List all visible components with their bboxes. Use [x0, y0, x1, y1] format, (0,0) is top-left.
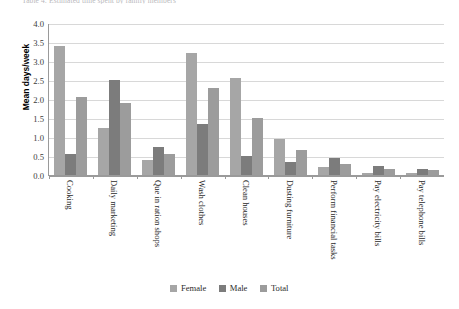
- x-axis-tickmark: [400, 175, 401, 179]
- x-axis-tickmark: [268, 175, 269, 179]
- bar-group: [268, 24, 312, 175]
- bar-female[interactable]: [406, 173, 417, 175]
- chart-figure: Table 4: Estimated time spent by family …: [0, 0, 459, 309]
- bar-total[interactable]: [340, 164, 351, 175]
- x-axis-category-text: Cooking: [65, 180, 75, 210]
- bar-male[interactable]: [65, 154, 76, 175]
- y-axis-tick-label: 1.5: [20, 114, 44, 124]
- x-axis-tickmark: [93, 175, 94, 179]
- bar-male[interactable]: [417, 169, 428, 175]
- legend-label: Total: [271, 283, 289, 293]
- bar-total[interactable]: [208, 88, 219, 175]
- bar-total[interactable]: [252, 118, 263, 175]
- chart-legend: FemaleMaleTotal: [0, 283, 459, 293]
- bar-total[interactable]: [428, 170, 439, 175]
- x-axis-category-text: Que in ration shops: [153, 180, 163, 247]
- bar-group: [137, 24, 181, 175]
- bar-group: [400, 24, 444, 175]
- y-axis-tick-label: 2.0: [20, 95, 44, 105]
- x-axis-tickmark: [312, 175, 313, 179]
- x-axis-category: Clean houses: [224, 180, 268, 272]
- bar-group: [181, 24, 225, 175]
- x-axis-category: Pay telephone bills: [400, 180, 444, 272]
- bar-female[interactable]: [362, 173, 373, 175]
- bar-male[interactable]: [373, 166, 384, 176]
- bar-total[interactable]: [76, 97, 87, 175]
- y-axis-tick-label: 2.5: [20, 76, 44, 86]
- x-axis-tickmark: [225, 175, 226, 179]
- bar-female[interactable]: [318, 167, 329, 175]
- bar-female[interactable]: [274, 139, 285, 175]
- x-axis-tickmark: [181, 175, 182, 179]
- y-axis-tick-label: 3.5: [20, 38, 44, 48]
- x-axis-category-text: Perform financial tasks: [329, 180, 339, 260]
- plot-area: [48, 24, 444, 176]
- bar-female[interactable]: [54, 46, 65, 175]
- x-axis-category-text: Wash clothes: [197, 180, 207, 225]
- y-axis-tick-label: 0.5: [20, 152, 44, 162]
- bar-group: [225, 24, 269, 175]
- y-axis-tick-label: 1.0: [20, 133, 44, 143]
- bar-male[interactable]: [285, 162, 296, 175]
- x-axis-tickmark: [49, 175, 50, 179]
- bar-female[interactable]: [142, 160, 153, 175]
- bar-male[interactable]: [153, 147, 164, 176]
- legend-label: Female: [181, 283, 206, 293]
- x-axis-category-text: Pay electricity bills: [373, 180, 383, 246]
- x-axis-category-text: Pay telephone bills: [417, 180, 427, 245]
- y-axis-tick-label: 4.0: [20, 19, 44, 29]
- legend-item[interactable]: Total: [260, 283, 288, 293]
- legend-swatch-icon: [260, 285, 267, 292]
- x-axis-category: Perform financial tasks: [312, 180, 356, 272]
- x-axis-category-text: Daily marketing: [109, 180, 119, 236]
- x-axis-category: Dusting furniture: [268, 180, 312, 272]
- bar-total[interactable]: [120, 103, 131, 175]
- x-axis-category-labels: CookingDaily marketingQue in ration shop…: [48, 180, 444, 272]
- x-axis-category: Cooking: [48, 180, 92, 272]
- y-axis-tick-label: 3.0: [20, 57, 44, 67]
- x-axis-category: Daily marketing: [92, 180, 136, 272]
- legend-swatch-icon: [170, 285, 177, 292]
- bar-female[interactable]: [98, 128, 109, 176]
- x-axis-category: Que in ration shops: [136, 180, 180, 272]
- y-axis-tick-label: 0.0: [20, 171, 44, 181]
- bar-female[interactable]: [186, 53, 197, 175]
- x-axis-category: Wash clothes: [180, 180, 224, 272]
- gridline: [49, 176, 444, 177]
- x-axis-category-text: Clean houses: [241, 180, 251, 226]
- bar-group: [93, 24, 137, 175]
- bar-male[interactable]: [109, 80, 120, 175]
- x-axis-tickmark: [137, 175, 138, 179]
- x-axis-category-text: Dusting furniture: [285, 180, 295, 239]
- bar-total[interactable]: [296, 150, 307, 175]
- x-axis-category: Pay electricity bills: [356, 180, 400, 272]
- bar-male[interactable]: [197, 124, 208, 175]
- bar-male[interactable]: [241, 156, 252, 175]
- legend-label: Male: [230, 283, 248, 293]
- bar-total[interactable]: [384, 169, 395, 175]
- y-axis-tick-labels: 4.03.53.02.52.01.51.00.50.0: [20, 0, 44, 309]
- bar-female[interactable]: [230, 78, 241, 175]
- bar-group: [49, 24, 93, 175]
- bar-group: [312, 24, 356, 175]
- bar-group: [356, 24, 400, 175]
- bar-total[interactable]: [164, 154, 175, 175]
- legend-item[interactable]: Male: [219, 283, 247, 293]
- bar-male[interactable]: [329, 158, 340, 175]
- bar-groups: [49, 24, 444, 175]
- x-axis-tickmark: [356, 175, 357, 179]
- legend-swatch-icon: [219, 285, 226, 292]
- figure-caption: Table 4: Estimated time spent by family …: [22, 0, 442, 4]
- legend-item[interactable]: Female: [170, 283, 206, 293]
